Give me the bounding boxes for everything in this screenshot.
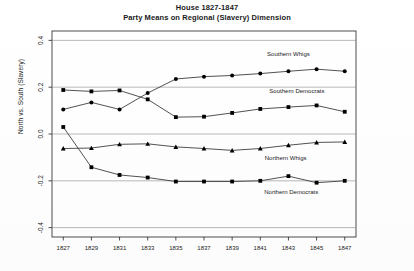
data-point <box>146 97 150 101</box>
data-point <box>286 69 290 73</box>
data-point <box>287 105 291 109</box>
data-point <box>90 165 94 169</box>
data-point <box>287 174 291 178</box>
x-tick-label: 1843 <box>282 245 296 251</box>
y-tick-label: -0.2 <box>37 175 44 187</box>
y-tick-label: 0.2 <box>37 82 44 91</box>
data-point <box>61 107 65 111</box>
data-point <box>118 89 122 93</box>
data-point <box>343 69 347 73</box>
data-point <box>315 104 319 108</box>
data-point <box>146 91 150 95</box>
chart-figure: House 1827-1847 Party Means on Regional … <box>0 0 414 271</box>
data-point <box>146 176 150 180</box>
data-point <box>174 115 178 119</box>
x-tick-label: 1831 <box>113 245 127 251</box>
x-tick-label: 1841 <box>254 245 268 251</box>
data-point <box>118 173 122 177</box>
figure-caption <box>4 262 408 271</box>
data-point <box>230 180 234 184</box>
data-point <box>230 111 234 115</box>
plot-canvas: 0.40.20.0-0.2-0.418271829183118331835183… <box>0 0 414 271</box>
data-point <box>202 75 206 79</box>
data-point <box>315 67 319 71</box>
series-label: Southern Whigs <box>267 51 310 57</box>
series-label: Northern Whigs <box>265 155 307 161</box>
data-point <box>174 77 178 81</box>
data-point <box>202 180 206 184</box>
series-southern-whigs: Southern Whigs <box>61 51 346 112</box>
x-tick-label: 1847 <box>338 245 352 251</box>
data-point <box>61 125 65 129</box>
data-point <box>230 73 234 77</box>
y-tick-label: -0.4 <box>37 222 44 234</box>
data-point <box>343 110 347 114</box>
data-point <box>174 180 178 184</box>
x-tick-label: 1827 <box>57 245 71 251</box>
data-point <box>61 88 65 92</box>
x-tick-label: 1839 <box>225 245 239 251</box>
series-southern-democrats: Southern Democrats <box>61 88 346 119</box>
series-label: Southern Democrats <box>269 88 324 94</box>
x-tick-label: 1837 <box>197 245 211 251</box>
data-point <box>202 115 206 119</box>
series-label: Northern Democrats <box>264 189 318 195</box>
data-point <box>258 179 262 183</box>
x-tick-label: 1833 <box>141 245 155 251</box>
x-tick-label: 1829 <box>85 245 99 251</box>
y-tick-label: 0.0 <box>37 129 44 138</box>
y-tick-label: 0.4 <box>37 35 44 44</box>
data-point <box>315 181 319 185</box>
series-line <box>63 90 344 117</box>
series-northern-whigs: Northern Whigs <box>61 140 347 161</box>
data-point <box>343 179 347 183</box>
data-point <box>258 72 262 76</box>
x-tick-label: 1845 <box>310 245 324 251</box>
data-point <box>118 107 122 111</box>
data-point <box>258 107 262 111</box>
data-point <box>90 89 94 93</box>
data-point <box>89 100 93 104</box>
x-tick-label: 1835 <box>169 245 183 251</box>
